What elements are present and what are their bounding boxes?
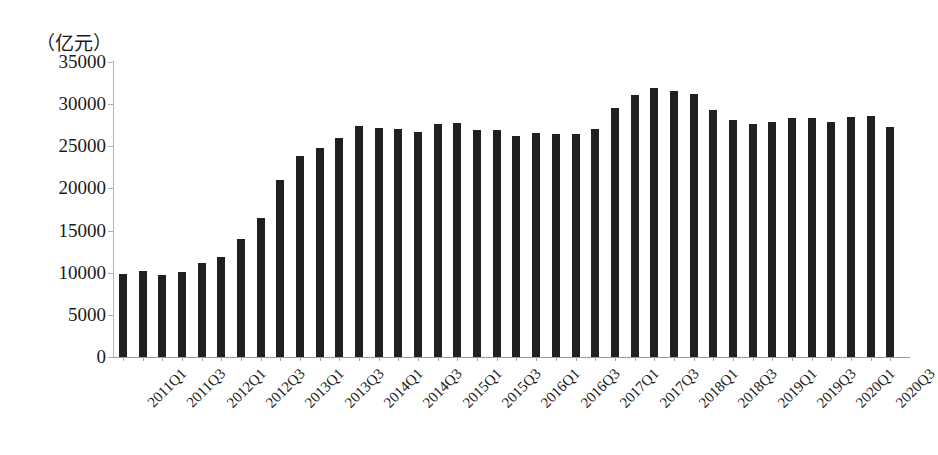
x-axis-tick-label: 2013Q1 [302, 366, 347, 411]
x-axis-tick-mark [438, 357, 439, 361]
bar [414, 132, 422, 357]
bar [335, 138, 343, 357]
x-axis-tick-mark [890, 357, 891, 361]
x-axis-tick-mark [753, 357, 754, 361]
y-axis-tick-label: 30000 [59, 94, 107, 113]
x-axis-tick-label: 2018Q3 [735, 366, 780, 411]
x-axis-tick-mark [635, 357, 636, 361]
x-axis-tick-label: 2016Q1 [539, 366, 584, 411]
x-axis-tick-label: 2019Q3 [814, 366, 859, 411]
y-axis-tick-mark [108, 357, 113, 358]
bar [375, 128, 383, 357]
y-axis-tick-mark [108, 188, 113, 189]
x-axis-tick-mark [280, 357, 281, 361]
y-axis-tick-labels: 35000300002500020000150001000050000 [0, 0, 106, 455]
x-axis-tick-mark [713, 357, 714, 361]
x-axis-tick-mark [143, 357, 144, 361]
x-axis-tick-mark [359, 357, 360, 361]
bar [709, 110, 717, 357]
x-axis-tick-mark [418, 357, 419, 361]
y-axis-tick-label: 5000 [68, 305, 106, 324]
y-axis-tick-mark [108, 62, 113, 63]
x-axis-tick-mark [871, 357, 872, 361]
x-axis-tick-mark [812, 357, 813, 361]
x-axis-tick-mark [320, 357, 321, 361]
x-axis-tick-mark [241, 357, 242, 361]
y-axis-tick-mark [108, 231, 113, 232]
x-axis-tick-mark [733, 357, 734, 361]
y-axis-tick-label: 15000 [59, 221, 107, 240]
x-axis-tick-mark [536, 357, 537, 361]
x-axis-line [113, 357, 910, 358]
x-axis-tick-mark [851, 357, 852, 361]
bar [847, 117, 855, 357]
x-axis-tick-label: 2015Q1 [460, 366, 505, 411]
x-axis-tick-mark [615, 357, 616, 361]
x-axis-tick-label: 2015Q3 [499, 366, 544, 411]
bar [394, 129, 402, 357]
x-axis-tick-mark [576, 357, 577, 361]
x-axis-tick-mark [831, 357, 832, 361]
bar [237, 239, 245, 357]
bar [512, 136, 520, 357]
y-axis-tick-mark [108, 315, 113, 316]
bar [591, 129, 599, 357]
bar [631, 95, 639, 357]
x-axis-tick-label: 2016Q3 [578, 366, 623, 411]
bar [257, 218, 265, 357]
x-axis-tick-label: 2011Q3 [184, 366, 228, 410]
x-axis-tick-mark [694, 357, 695, 361]
x-axis-tick-label: 2017Q3 [657, 366, 702, 411]
x-axis-tick-mark [792, 357, 793, 361]
bar [217, 257, 225, 357]
bar [178, 272, 186, 357]
x-axis-tick-label: 2020Q3 [893, 366, 938, 411]
x-axis-tick-mark [674, 357, 675, 361]
x-axis-tick-mark [162, 357, 163, 361]
x-axis-tick-label: 2012Q3 [263, 366, 308, 411]
bar [473, 130, 481, 357]
x-axis-tick-label: 2014Q3 [421, 366, 466, 411]
x-axis-tick-mark [182, 357, 183, 361]
bar [532, 133, 540, 357]
y-axis-tick-label: 25000 [59, 136, 107, 155]
bar [119, 274, 127, 357]
bar [808, 118, 816, 357]
x-axis-tick-mark [497, 357, 498, 361]
x-axis-tick-mark [516, 357, 517, 361]
x-axis-tick-mark [477, 357, 478, 361]
x-axis-tick-label: 2011Q1 [145, 366, 189, 410]
bar [158, 275, 166, 357]
x-axis-tick-label: 2019Q1 [775, 366, 820, 411]
y-axis-tick-label: 0 [97, 347, 107, 366]
bar [552, 134, 560, 357]
x-axis-tick-label: 2013Q3 [342, 366, 387, 411]
bar [788, 118, 796, 357]
bar [355, 126, 363, 357]
bar [827, 122, 835, 357]
y-axis-tick-label: 35000 [59, 52, 107, 71]
bar [690, 94, 698, 357]
x-axis-tick-mark [261, 357, 262, 361]
x-axis-tick-mark [772, 357, 773, 361]
y-axis-tick-label: 20000 [59, 178, 107, 197]
bar [296, 156, 304, 357]
bar [867, 116, 875, 357]
x-axis-tick-label: 2018Q1 [696, 366, 741, 411]
bar [434, 124, 442, 357]
x-axis-tick-mark [300, 357, 301, 361]
bar [493, 130, 501, 357]
bar [729, 120, 737, 357]
x-axis-tick-mark [202, 357, 203, 361]
y-axis-tick-mark [108, 146, 113, 147]
x-axis-tick-mark [654, 357, 655, 361]
x-axis-tick-label: 2017Q1 [617, 366, 662, 411]
y-axis-tick-mark [108, 273, 113, 274]
bar [749, 124, 757, 357]
x-axis-tick-label: 2020Q1 [854, 366, 899, 411]
x-axis-tick-label: 2012Q1 [224, 366, 269, 411]
bar [650, 88, 658, 357]
bar [572, 134, 580, 357]
y-axis-tick-mark [108, 104, 113, 105]
